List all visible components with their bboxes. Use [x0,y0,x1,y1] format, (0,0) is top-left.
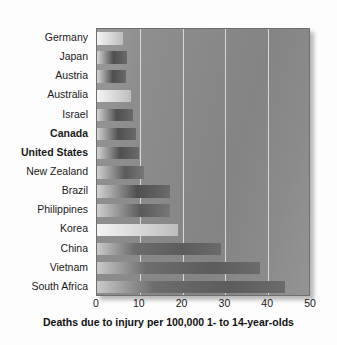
y-axis-label: China [0,239,88,258]
bar [97,51,127,63]
bar [97,224,178,236]
y-axis-label: Israel [0,105,88,124]
bar-chart-figure: GermanyJapanAustriaAustraliaIsraelCanada… [0,0,337,345]
bar-row [97,106,309,125]
x-tick-label: 0 [93,297,99,309]
bar-row [97,67,309,86]
bar [97,128,136,140]
x-axis-tick-labels: 01020304050 [96,297,310,313]
x-tick-label: 50 [304,297,316,309]
y-axis-label: Brazil [0,181,88,200]
bar-row [97,220,309,239]
bar-row [97,144,309,163]
y-axis-label: Japan [0,47,88,66]
y-axis-label: Canada [0,124,88,143]
bar-row [97,259,309,278]
plot-area [96,28,310,296]
bar [97,243,221,255]
y-axis-label: Germany [0,28,88,47]
bar [97,32,123,44]
bar-row [97,240,309,259]
y-axis-label: Austria [0,66,88,85]
bar [97,166,144,178]
bar-row [97,182,309,201]
y-axis-category-labels: GermanyJapanAustriaAustraliaIsraelCanada… [0,28,92,296]
bar [97,281,285,293]
bar-row [97,163,309,182]
bar [97,262,260,274]
bar-row [97,125,309,144]
bar [97,90,131,102]
x-tick-label: 40 [261,297,273,309]
y-axis-label: South Africa [0,277,88,296]
y-axis-label: Korea [0,219,88,238]
bar-row [97,48,309,67]
bar [97,109,133,121]
x-tick-label: 10 [133,297,145,309]
bar [97,147,139,159]
bar [97,70,126,82]
bar [97,204,170,216]
bar-row [97,29,309,48]
bar [97,185,170,197]
y-axis-label: Philippines [0,200,88,219]
y-axis-label: Vietnam [0,258,88,277]
x-tick-label: 30 [219,297,231,309]
x-axis-caption: Deaths due to injury per 100,000 1- to 1… [0,316,337,328]
bar-row [97,201,309,220]
bar-series [97,29,309,295]
bar-row [97,278,309,296]
y-axis-label: United States [0,143,88,162]
y-axis-label: New Zealand [0,162,88,181]
bar-row [97,86,309,105]
x-tick-label: 20 [176,297,188,309]
y-axis-label: Australia [0,85,88,104]
